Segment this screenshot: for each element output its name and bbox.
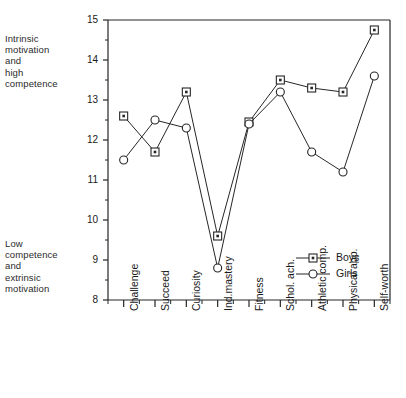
y-tick-label: 8 [74, 294, 98, 305]
legend-label-girls: Girls [336, 267, 358, 279]
x-tick-label: Curiosity [190, 270, 202, 311]
y-tick-label: 13 [74, 94, 98, 105]
legend-label-boys: Boys [336, 251, 359, 263]
x-tick-label: Schol. ach. [284, 259, 296, 311]
y-tick-label: 10 [74, 214, 98, 225]
x-tick-label: Ind.mastery [222, 256, 234, 311]
y-tick-label: 11 [74, 174, 98, 185]
y-tick-label: 14 [74, 54, 98, 65]
x-tick-label: Self-worth [378, 264, 390, 311]
x-tick-label: Challenge [128, 264, 140, 311]
chart-figure: Intrinsic motivation and high competence… [0, 0, 406, 398]
x-tick-label: Athletic comp. [316, 245, 328, 311]
x-tick-label: Fitness [253, 277, 265, 311]
y-tick-label: 9 [74, 254, 98, 265]
y-tick-label: 12 [74, 134, 98, 145]
plot-area [0, 0, 406, 398]
x-tick-label: Succeed [159, 270, 171, 311]
y-tick-label: 15 [74, 14, 98, 25]
